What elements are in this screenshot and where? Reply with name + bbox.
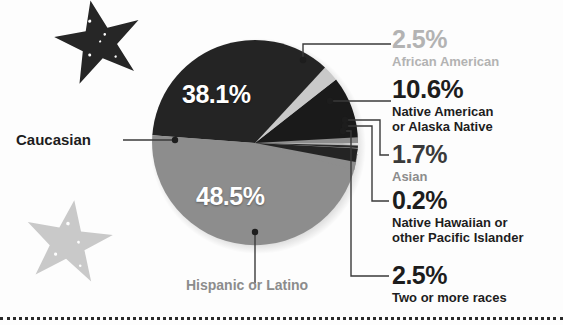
callout-african-american-label: African American xyxy=(392,55,499,70)
callout-two-or-more-label: Two or more races xyxy=(392,291,507,306)
callout-asian-percent: 1.7% xyxy=(392,142,447,167)
pie-slices xyxy=(152,40,358,245)
slice-value-caucasian: 38.1% xyxy=(182,80,250,109)
infographic-pie-chart: 38.1% 48.5% Caucasian Hispanic or Latino… xyxy=(0,0,563,325)
dotted-divider xyxy=(0,317,563,320)
label-caucasian: Caucasian xyxy=(16,131,91,148)
callout-african-american: 2.5% African American xyxy=(392,27,499,70)
slice-value-hispanic: 48.5% xyxy=(196,182,264,211)
callout-two-or-more-percent: 2.5% xyxy=(392,263,507,288)
callout-native-hawaiian-label-line2: other Pacific Islander xyxy=(392,231,524,246)
callout-native-american-label-line2: or Alaska Native xyxy=(392,120,493,135)
callout-native-hawaiian-percent: 0.2% xyxy=(392,188,524,213)
callout-native-american-percent: 10.6% xyxy=(392,76,493,102)
callout-native-hawaiian-label-line1: Native Hawaiian or xyxy=(392,216,524,231)
label-hispanic-latino: Hispanic or Latino xyxy=(186,277,308,293)
callout-asian-label: Asian xyxy=(392,170,447,185)
callout-african-american-percent: 2.5% xyxy=(392,27,499,52)
callout-two-or-more: 2.5% Two or more races xyxy=(392,263,507,306)
callout-native-american: 10.6% Native American or Alaska Native xyxy=(392,76,493,134)
callout-asian: 1.7% Asian xyxy=(392,142,447,185)
callout-native-american-label-line1: Native American xyxy=(392,105,493,120)
callout-native-hawaiian: 0.2% Native Hawaiian or other Pacific Is… xyxy=(392,188,524,245)
